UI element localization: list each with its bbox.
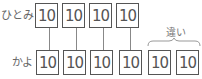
hitomi-box-1: 10 xyxy=(35,3,58,28)
kayo-box-3: 10 xyxy=(90,50,113,75)
kayo-box-5: 10 xyxy=(148,50,171,75)
kayo-box-1: 10 xyxy=(36,50,59,75)
connector-line-4 xyxy=(130,28,131,50)
connector-line-1 xyxy=(49,28,50,50)
hitomi-box-4: 10 xyxy=(116,3,139,28)
difference-label: 違い xyxy=(166,24,186,39)
connector-line-2 xyxy=(76,28,77,50)
hitomi-box-2: 10 xyxy=(62,3,85,28)
kayo-box-2: 10 xyxy=(63,50,86,75)
hitomi-box-3: 10 xyxy=(89,3,112,28)
row-label-hitomi: ひとみ xyxy=(1,10,34,22)
kayo-box-4: 10 xyxy=(119,50,142,75)
row-label-kayo: かよ xyxy=(12,57,33,69)
connector-line-3 xyxy=(103,28,104,50)
kayo-box-6: 10 xyxy=(176,50,199,75)
